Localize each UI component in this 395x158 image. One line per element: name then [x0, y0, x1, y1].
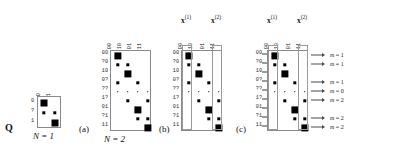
- col-label-c-2: 01: [287, 43, 292, 49]
- row-label-a-6: 01: [94, 105, 108, 110]
- matrix-cell: [53, 111, 56, 114]
- row-label-b-8: 11: [165, 123, 179, 128]
- matrix-cell: [146, 99, 149, 102]
- matrix-cell: [127, 91, 129, 93]
- figure-canvas: Q 0 1 0 ? 1 N = 1 (a) 00 10 01 11 00 ?0 …: [0, 0, 395, 158]
- matrix-cell: [126, 63, 129, 66]
- matrix-cell: [281, 70, 288, 77]
- matrix-cell: [207, 81, 210, 84]
- row-label-b-2: 10: [165, 69, 179, 74]
- matrix-cell: [195, 70, 202, 77]
- matrix-a: [110, 50, 151, 131]
- row-label-c-3: 0?: [248, 78, 262, 83]
- matrix-cell: [41, 99, 48, 106]
- matrix-cell: [293, 81, 296, 84]
- col-label-a-1: 10: [118, 43, 123, 49]
- annotation-arrow-head: [322, 116, 325, 120]
- group-header-b-x1: x(1): [181, 14, 191, 25]
- group-header-b-x2: x(2): [211, 14, 221, 25]
- matrix-cell: [116, 81, 119, 84]
- annotation-arrow-head: [322, 53, 325, 57]
- row-label-a-3: 0?: [94, 78, 108, 83]
- annotation-label: m = 2: [330, 115, 344, 121]
- annotation-label: m = 1: [330, 79, 344, 85]
- matrix-cell: [283, 63, 286, 66]
- row-label-c-6: 01: [248, 105, 262, 110]
- annotation-arrow-head: [322, 80, 325, 84]
- annotation-label: m = 0: [330, 88, 344, 94]
- row-label-a-0: 00: [94, 51, 108, 56]
- row-label-a-2: 10: [94, 69, 108, 74]
- row-label-c-0: 00: [248, 51, 262, 56]
- panel-tag-c: (c): [236, 124, 246, 134]
- col-label-a-0: 00: [108, 43, 113, 49]
- matrix-cell: [134, 106, 141, 113]
- annotation-arrow-head: [322, 62, 325, 66]
- annotation-arrow-head: [322, 125, 325, 129]
- matrix-cell: [198, 91, 200, 93]
- matrix-cell: [294, 91, 296, 93]
- matrix-cell: [283, 99, 286, 102]
- row-label-c-5: 1?: [248, 96, 262, 101]
- row-label-b-7: ?1: [165, 114, 179, 119]
- annotation-label: m = 1: [330, 52, 344, 58]
- row-label-c-1: ?0: [248, 60, 262, 65]
- matrix-cell: [197, 63, 200, 66]
- matrix-cell: [146, 117, 149, 120]
- row-label-a-1: ?0: [94, 60, 108, 65]
- group-header-c-x1: x(1): [267, 14, 277, 25]
- row-label-a-8: 11: [94, 123, 108, 128]
- row-label-b-1: ?0: [165, 60, 179, 65]
- annotation-label: m = 2: [330, 124, 344, 130]
- annotation-arrow-head: [322, 98, 325, 102]
- annotation-label: m = 2: [330, 97, 344, 103]
- column-highlight-b-x2: [212, 45, 222, 130]
- group-header-c-x2: x(2): [297, 14, 307, 25]
- matrix-cell: [207, 117, 210, 120]
- sublabel-n1: N = 1: [33, 131, 54, 141]
- column-highlight-c-x1: [268, 45, 278, 130]
- row-label-n1-2: 1: [24, 119, 34, 124]
- matrix-cell: [42, 111, 45, 114]
- matrix-cell: [52, 119, 59, 126]
- row-label-n1-1: ?: [24, 109, 34, 114]
- row-label-a-4: ??: [94, 87, 108, 92]
- row-label-a-7: ?1: [94, 114, 108, 119]
- annotation-arrow-head: [322, 89, 325, 93]
- matrix-cell: [124, 70, 131, 77]
- matrix-cell: [144, 124, 151, 131]
- matrix-cell: [114, 52, 121, 59]
- matrix-n1: [37, 96, 61, 128]
- annotation-label: m = 1: [330, 61, 344, 67]
- col-label-b-2: 01: [201, 43, 206, 49]
- matrix-cell: [137, 91, 139, 93]
- matrix-cell: [147, 91, 149, 93]
- matrix-cell: [208, 91, 210, 93]
- col-label-a-3: 11: [138, 43, 143, 49]
- row-label-a-5: 1?: [94, 96, 108, 101]
- row-label-b-6: 01: [165, 105, 179, 110]
- row-label-c-2: 10: [248, 69, 262, 74]
- column-highlight-c-x2: [298, 45, 308, 130]
- q-operator-label: Q: [5, 122, 13, 133]
- column-highlight-b-x1: [182, 45, 192, 130]
- matrix-cell: [197, 99, 200, 102]
- col-label-a-2: 01: [128, 43, 133, 49]
- matrix-cell: [293, 117, 296, 120]
- matrix-cell: [116, 63, 119, 66]
- matrix-cell: [284, 91, 286, 93]
- matrix-cell: [117, 91, 119, 93]
- row-label-b-5: 1?: [165, 96, 179, 101]
- matrix-cell: [126, 99, 129, 102]
- row-label-c-7: ?1: [248, 114, 262, 119]
- matrix-cell: [136, 117, 139, 120]
- row-label-b-0: 00: [165, 51, 179, 56]
- row-label-b-4: ??: [165, 87, 179, 92]
- row-label-c-8: 11: [248, 123, 262, 128]
- sublabel-a: N = 2: [104, 134, 125, 144]
- row-label-b-3: 0?: [165, 78, 179, 83]
- matrix-cell: [136, 81, 139, 84]
- panel-tag-a: (a): [79, 124, 89, 134]
- row-label-n1-0: 0: [24, 99, 34, 104]
- row-label-c-4: ??: [248, 87, 262, 92]
